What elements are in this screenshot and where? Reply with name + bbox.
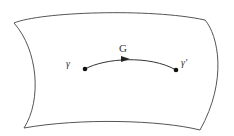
end-point (174, 68, 179, 73)
end-label: γ' (181, 57, 188, 68)
path-label: G (119, 42, 127, 54)
start-point (83, 67, 88, 72)
start-label: γ (66, 58, 71, 69)
arrow-head-icon (121, 56, 130, 62)
manifold-diagram: G γ γ' (0, 0, 234, 136)
surface-outline (14, 13, 218, 130)
path-curve (85, 60, 176, 70)
